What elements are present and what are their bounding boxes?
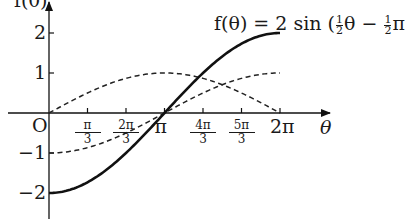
x-ticks [88,108,281,113]
y-axis-label: f(θ) [14,0,47,10]
x-tick-label: 2π [270,117,295,136]
chart-title: f(θ) = 2 sin (12θ − 12π [214,12,405,36]
dashed-curve-sin-half [49,73,280,113]
y-tick-label: −2 [18,183,46,202]
origin-label: O [32,116,48,135]
y-tick-label: 1 [34,63,46,82]
x-tick-label: π [155,117,168,136]
x-axis-label: θ [320,118,331,137]
y-tick-label: 2 [34,23,46,42]
x-tick-label: π3 [75,119,101,145]
x-tick-label: 5π3 [229,119,255,145]
x-tick-label: 4π3 [190,119,216,145]
y-tick-label: −1 [18,143,46,162]
x-tick-label: 2π3 [113,119,139,145]
